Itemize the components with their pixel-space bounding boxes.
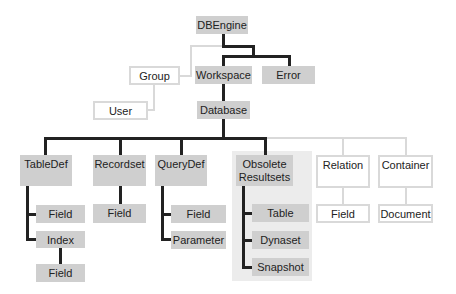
- node-snapshot: Snapshot: [252, 258, 309, 276]
- connector-ws-error-h: [222, 55, 290, 58]
- connector-error-v: [288, 55, 291, 66]
- connector-obsolete-v: [264, 137, 267, 155]
- connector-dbengine-group: [190, 45, 223, 47]
- connector-group-h: [180, 75, 192, 77]
- connector-relation-v: [342, 137, 344, 155]
- node-table: Table: [252, 204, 309, 222]
- node-document: Document: [378, 204, 433, 223]
- node-error: Error: [262, 66, 315, 84]
- node-dbengine: DBEngine: [196, 16, 248, 34]
- node-workspace: Workspace: [195, 66, 252, 84]
- connector-dynaset-h: [242, 239, 252, 242]
- connector-tabledef-field-h: [26, 213, 36, 216]
- connector-obsolete-children-v: [242, 186, 245, 268]
- connector-tabledef-v: [44, 137, 47, 155]
- connector-group-user-v: [153, 84, 155, 111]
- connector-group-user-h: [148, 109, 155, 111]
- connector-table-h: [242, 212, 252, 215]
- node-user: User: [93, 101, 148, 120]
- connector-querydef-parameter-h: [161, 238, 171, 241]
- node-querydef-parameter: Parameter: [171, 231, 226, 249]
- node-tabledef: TableDef: [20, 155, 72, 186]
- node-recordset: Recordset: [93, 155, 146, 186]
- connector-container-v: [405, 137, 407, 155]
- connector-database-down: [222, 119, 225, 139]
- obsolete-label-line1: Obsolete: [236, 158, 293, 171]
- connector-workspace-database: [222, 84, 225, 101]
- connector-dbengine-right: [222, 45, 254, 48]
- node-index-field: Field: [36, 264, 85, 282]
- node-container: Container: [378, 155, 433, 188]
- connector-relation-field: [342, 188, 344, 204]
- node-dynaset: Dynaset: [252, 231, 309, 249]
- node-recordset-field: Field: [93, 204, 146, 223]
- connector-index-field-v: [59, 248, 62, 264]
- connector-tabledef-index-h: [26, 238, 36, 241]
- connector-recordset-field-v: [119, 186, 122, 204]
- node-querydef: QueryDef: [155, 155, 207, 186]
- connector-database-relation-h: [265, 137, 407, 139]
- node-database: Database: [197, 101, 250, 119]
- node-relation-field: Field: [316, 204, 370, 223]
- node-tabledef-index: Index: [36, 231, 85, 248]
- node-tabledef-field: Field: [36, 205, 85, 223]
- connector-dbengine-group-v: [190, 45, 192, 76]
- connector-container-document: [405, 188, 407, 204]
- connector-recordset-v: [119, 137, 122, 155]
- connector-workspace-v: [222, 55, 225, 66]
- node-obsolete-resultsets: Obsolete Resultsets: [236, 155, 293, 186]
- connector-database-children-h: [44, 137, 267, 140]
- connector-querydef-v: [180, 137, 183, 155]
- node-querydef-field: Field: [171, 205, 226, 223]
- node-relation: Relation: [316, 155, 370, 188]
- node-group: Group: [129, 66, 180, 85]
- connector-snapshot-h: [242, 266, 252, 269]
- obsolete-label-line2: Resultsets: [236, 171, 293, 184]
- connector-querydef-field-h: [161, 213, 171, 216]
